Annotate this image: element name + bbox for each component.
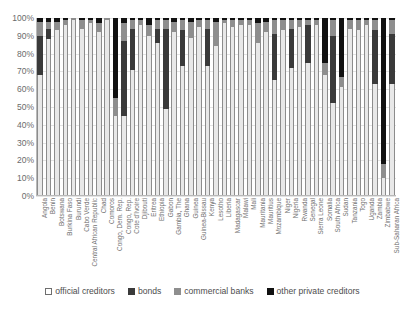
- bar-south-africa[interactable]: [330, 18, 336, 196]
- plot-area: [36, 18, 396, 196]
- x-axis-tick-label: Cote d'Ivoire: [134, 198, 140, 234]
- bar-central-african-republic[interactable]: [88, 18, 94, 196]
- bar-zimbabwe[interactable]: [381, 18, 387, 196]
- bar-ghana[interactable]: [180, 18, 186, 196]
- bar-zambia[interactable]: [372, 18, 378, 196]
- bar-eritrea[interactable]: [146, 18, 152, 196]
- bar-niger[interactable]: [280, 18, 286, 196]
- bar-segment: [247, 20, 253, 25]
- bar-angola[interactable]: [37, 18, 43, 196]
- x-axis-tick-label: Angola: [42, 198, 48, 218]
- bar-cabo-verde[interactable]: [79, 18, 85, 196]
- bar-lesotho[interactable]: [213, 18, 219, 196]
- bar-rwanda[interactable]: [297, 18, 303, 196]
- y-axis-tick-label: 0%: [0, 192, 34, 201]
- x-axis-tick-label: Congo, Dem. Rep.: [117, 198, 123, 251]
- bar-segment: [322, 18, 328, 63]
- bar-segment: [54, 18, 60, 22]
- bar-malawi[interactable]: [238, 18, 244, 196]
- bar-mauritius[interactable]: [263, 18, 269, 196]
- x-axis-tick-label: Tanzania: [352, 198, 358, 224]
- x-axis-tick-label: Madagascar: [235, 198, 241, 233]
- bar-segment: [305, 20, 311, 25]
- bar-segment: [230, 18, 236, 20]
- bar-togo[interactable]: [356, 18, 362, 196]
- bar-gabon[interactable]: [163, 18, 169, 196]
- bar-senegal[interactable]: [305, 18, 311, 196]
- bar-liberia[interactable]: [222, 18, 228, 196]
- bar-segment: [389, 20, 395, 34]
- bar-segment: [46, 39, 52, 196]
- bar-guinea-bissau[interactable]: [196, 18, 202, 196]
- bar-kenya[interactable]: [205, 18, 211, 196]
- bar-segment: [180, 18, 186, 20]
- bar-guinea[interactable]: [188, 18, 194, 196]
- bar-segment: [146, 36, 152, 196]
- bar-segment: [230, 20, 236, 27]
- bar-nigeria[interactable]: [289, 18, 295, 196]
- bar-segment: [130, 70, 136, 196]
- bar-segment: [255, 18, 261, 23]
- bar-segment: [297, 20, 303, 27]
- bar-segment: [272, 80, 278, 196]
- bar-segment: [205, 20, 211, 29]
- stacked-bar-chart: 100%90%80%70%60%50%40%30%20%10%0% Angola…: [0, 0, 405, 312]
- bar-segment: [138, 18, 144, 20]
- bar-segment: [322, 63, 328, 75]
- bar-segment: [263, 22, 269, 33]
- bar-botswana[interactable]: [54, 18, 60, 196]
- bar-burundi[interactable]: [71, 18, 77, 196]
- legend-item[interactable]: commercial banks: [174, 286, 253, 296]
- bar-segment: [180, 20, 186, 31]
- y-axis-tick-label: 60%: [0, 85, 34, 94]
- bar-segment: [96, 23, 102, 32]
- y-axis-tick-label: 30%: [0, 139, 34, 148]
- bar-segment: [364, 25, 370, 196]
- legend-item[interactable]: bonds: [128, 286, 161, 296]
- bar-madagascar[interactable]: [230, 18, 236, 196]
- bar-segment: [63, 20, 69, 25]
- bar-mauritania[interactable]: [255, 18, 261, 196]
- bar-congo-dem-rep[interactable]: [113, 18, 119, 196]
- bar-gambia-the[interactable]: [171, 18, 177, 196]
- bar-segment: [289, 29, 295, 68]
- x-axis-tick-label: Cabo Verde: [84, 198, 90, 232]
- bar-segment: [238, 25, 244, 196]
- legend-label: commercial banks: [184, 286, 253, 296]
- x-axis-tick-label: Uganda: [369, 198, 375, 220]
- bar-segment: [37, 36, 43, 75]
- bar-cote-d-ivoire[interactable]: [130, 18, 136, 196]
- bar-mozambique[interactable]: [272, 18, 278, 196]
- bar-segment: [171, 22, 177, 33]
- bar-benin[interactable]: [46, 18, 52, 196]
- bar-djibouti[interactable]: [138, 18, 144, 196]
- bar-segment: [155, 29, 161, 43]
- bar-burkina-faso[interactable]: [63, 18, 69, 196]
- bar-ethiopia[interactable]: [155, 18, 161, 196]
- bar-comoros[interactable]: [104, 18, 110, 196]
- bar-segment: [138, 25, 144, 196]
- bar-segment: [121, 23, 127, 41]
- legend-item[interactable]: other private creditors: [267, 286, 360, 296]
- bar-segment: [79, 20, 85, 29]
- x-axis-tick-label: Togo: [360, 198, 366, 212]
- bar-segment: [54, 22, 60, 31]
- bar-chad[interactable]: [96, 18, 102, 196]
- bar-somalia[interactable]: [322, 18, 328, 196]
- bar-tanzania[interactable]: [347, 18, 353, 196]
- bar-segment: [247, 18, 253, 20]
- y-axis-tick-label: 80%: [0, 50, 34, 59]
- bar-sub-saharan-africa[interactable]: [389, 18, 395, 196]
- x-axis-tick-label: Niger: [285, 198, 291, 213]
- bar-uganda[interactable]: [364, 18, 370, 196]
- x-axis-tick-label: Zimbabwe: [385, 198, 391, 227]
- bar-mali[interactable]: [247, 18, 253, 196]
- x-axis-tick-label: Ethiopia: [159, 198, 165, 221]
- bar-sierra-leone[interactable]: [314, 18, 320, 196]
- bar-congo-rep[interactable]: [121, 18, 127, 196]
- bar-segment: [163, 18, 169, 20]
- x-axis-tick-label: Rwanda: [302, 198, 308, 221]
- x-axis-tick-label: Djibouti: [142, 198, 148, 219]
- bar-sudan[interactable]: [339, 18, 345, 196]
- legend-item[interactable]: official creditors: [45, 286, 115, 296]
